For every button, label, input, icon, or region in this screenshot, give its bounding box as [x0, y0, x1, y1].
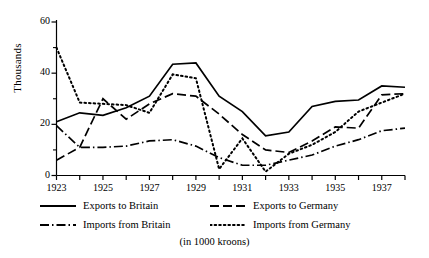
x-tick-label: 1925	[83, 182, 123, 193]
legend-entry-imports-from-britain[interactable]: Imports from Britain	[40, 219, 210, 230]
legend-swatch-dashdot	[40, 221, 76, 229]
x-tick-label: 1935	[315, 182, 355, 193]
data-series-group	[57, 48, 406, 172]
x-tick-label: 1937	[362, 182, 402, 193]
legend-label: Exports to Germany	[253, 200, 338, 211]
y-tick-label: 40	[22, 66, 50, 77]
legend-label: Imports from Britain	[83, 219, 171, 230]
chart-figure: Thousands 0204060 1923192519271929193119…	[0, 0, 429, 258]
y-tick-label: 0	[22, 169, 50, 180]
chart-caption: (in 1000 kroons)	[0, 236, 429, 247]
legend-entry-exports-to-germany[interactable]: Exports to Germany	[210, 200, 395, 211]
y-tick-label: 60	[22, 15, 50, 26]
series-line-imports-from-germany	[57, 48, 406, 172]
x-tick-label: 1933	[269, 182, 309, 193]
x-tick-label: 1931	[222, 182, 262, 193]
legend-entry-imports-from-germany[interactable]: Imports from Germany	[210, 219, 395, 230]
x-axis-ticks	[57, 176, 406, 181]
legend-swatch-solid	[40, 202, 76, 210]
legend-swatch-dotted	[210, 221, 246, 229]
x-tick-label: 1923	[37, 182, 77, 193]
x-tick-label: 1929	[176, 182, 216, 193]
legend-label: Exports to Britain	[83, 200, 158, 211]
x-tick-label: 1927	[129, 182, 169, 193]
y-axis-ticks	[52, 22, 57, 176]
legend-swatch-dashed	[210, 202, 246, 210]
y-tick-label: 20	[22, 117, 50, 128]
series-line-imports-from-britain	[57, 126, 406, 166]
chart-legend: Exports to BritainExports to GermanyImpo…	[40, 196, 395, 234]
legend-entry-exports-to-britain[interactable]: Exports to Britain	[40, 200, 210, 211]
series-line-exports-to-britain	[57, 63, 406, 136]
legend-label: Imports from Germany	[253, 219, 350, 230]
